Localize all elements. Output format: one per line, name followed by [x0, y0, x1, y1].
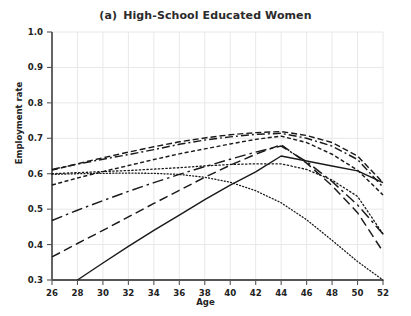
svg-text:0.9: 0.9: [28, 62, 43, 72]
svg-text:0.4: 0.4: [28, 240, 43, 250]
svg-text:0.5: 0.5: [28, 204, 43, 214]
y-axis-label: Employment rate: [14, 78, 24, 168]
chart-figure: (a)High-School Educated Women 2628303234…: [0, 0, 411, 316]
x-axis-label: Age: [0, 297, 411, 307]
svg-text:0.6: 0.6: [28, 169, 43, 179]
svg-text:0.7: 0.7: [28, 133, 43, 143]
svg-text:1.0: 1.0: [28, 27, 43, 37]
svg-text:0.3: 0.3: [28, 275, 43, 285]
data-series: [52, 132, 383, 280]
axis-lines: [52, 32, 383, 280]
svg-text:0.8: 0.8: [28, 98, 43, 108]
plot-area: 26283032343638404244464850520.30.40.50.6…: [0, 0, 411, 316]
gridlines: [52, 32, 383, 280]
